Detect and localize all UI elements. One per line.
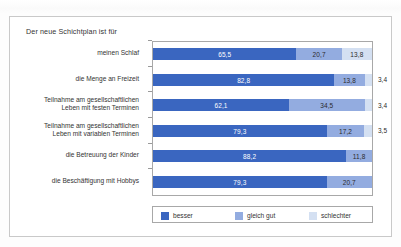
bar-segment: 82,8 bbox=[153, 74, 334, 86]
bar-segment: 13,8 bbox=[342, 48, 372, 60]
chart-page: Der neue Schichtplan ist für meinen Schl… bbox=[0, 0, 401, 247]
bar-value-label: 82,8 bbox=[237, 76, 250, 83]
bar-value-label: 20,7 bbox=[343, 179, 356, 186]
bar-segment: 79,3 bbox=[153, 125, 327, 137]
bar-segment: 11,8 bbox=[346, 150, 372, 162]
bar-segment: 34,5 bbox=[289, 99, 365, 111]
legend-item-besser[interactable]: besser bbox=[161, 210, 193, 221]
chart-title: Der neue Schichtplan ist für bbox=[26, 27, 117, 36]
legend-label: besser bbox=[173, 212, 193, 219]
bar-value-label-outside: 3,5 bbox=[378, 127, 387, 134]
scan-background-band bbox=[0, 0, 401, 14]
legend-swatch bbox=[161, 212, 169, 220]
category-label: Teilnahme am gesellschaftlichenLeben mit… bbox=[44, 96, 139, 112]
bar-value-label-outside: 3,4 bbox=[378, 76, 387, 83]
bar-segment: 17,2 bbox=[327, 125, 365, 137]
bar-value-label: 79,3 bbox=[233, 127, 246, 134]
category-label: die Beschäftigung mit Hobbys bbox=[52, 177, 139, 185]
bar-segment bbox=[364, 125, 372, 137]
category-label-line: Teilnahme am gesellschaftlichen bbox=[44, 96, 139, 104]
category-label: die Betreuung der Kinder bbox=[66, 151, 139, 159]
bar-value-label: 88,2 bbox=[243, 153, 256, 160]
bar-value-label: 62,1 bbox=[214, 102, 227, 109]
legend-item-gleich-gut[interactable]: gleich gut bbox=[235, 210, 275, 221]
bar-value-label: 20,7 bbox=[313, 51, 326, 58]
category-label: Teilnahme am gesellschaftlichenLeben mit… bbox=[44, 122, 139, 138]
legend-item-schlechter[interactable]: schlechter bbox=[309, 210, 351, 221]
bar-segment: 79,3 bbox=[153, 176, 327, 188]
bar-value-label: 34,5 bbox=[320, 102, 333, 109]
plot-area: 65,520,713,83,482,813,83,462,134,53,579,… bbox=[152, 41, 373, 196]
bar-row: 82,813,8 bbox=[153, 74, 372, 86]
category-label-line: die Menge an Freizeit bbox=[76, 75, 139, 83]
category-label-line: meinen Schlaf bbox=[97, 49, 139, 57]
bar-row: 79,320,7 bbox=[153, 176, 372, 188]
bar-value-label: 17,2 bbox=[339, 127, 352, 134]
chart-legend: bessergleich gutschlechter bbox=[152, 206, 373, 223]
bar-row: 79,317,2 bbox=[153, 125, 372, 137]
category-label-line: die Beschäftigung mit Hobbys bbox=[52, 177, 139, 185]
bar-segment: 13,8 bbox=[334, 74, 364, 86]
bar-value-label-outside: 3,4 bbox=[378, 102, 387, 109]
legend-label: gleich gut bbox=[247, 212, 275, 219]
bar-value-label: 13,8 bbox=[350, 51, 363, 58]
category-label-line: Leben mit festen Terminen bbox=[44, 104, 139, 112]
legend-swatch bbox=[235, 212, 243, 220]
bar-segment: 20,7 bbox=[327, 176, 372, 188]
legend-swatch bbox=[309, 212, 317, 220]
bar-value-label: 11,8 bbox=[353, 153, 366, 160]
legend-label: schlechter bbox=[321, 212, 351, 219]
bar-row: 88,211,8 bbox=[153, 150, 372, 162]
bar-value-label: 79,3 bbox=[233, 179, 246, 186]
bar-value-label: 13,8 bbox=[343, 76, 356, 83]
category-label-line: die Betreuung der Kinder bbox=[66, 151, 139, 159]
bar-segment bbox=[365, 74, 372, 86]
category-axis: meinen Schlafdie Menge an FreizeitTeilna… bbox=[0, 41, 152, 196]
category-label: meinen Schlaf bbox=[97, 49, 139, 57]
category-label-line: Leben mit variablen Terminen bbox=[44, 130, 139, 138]
bar-value-label: 65,5 bbox=[218, 51, 231, 58]
bar-row: 62,134,5 bbox=[153, 99, 372, 111]
category-label: die Menge an Freizeit bbox=[76, 75, 139, 83]
category-label-line: Teilnahme am gesellschaftlichen bbox=[44, 122, 139, 130]
bar-segment: 20,7 bbox=[296, 48, 341, 60]
bar-row: 65,520,713,8 bbox=[153, 48, 372, 60]
bar-segment bbox=[365, 99, 372, 111]
bar-segment: 62,1 bbox=[153, 99, 289, 111]
bar-segment: 65,5 bbox=[153, 48, 296, 60]
bar-segment: 88,2 bbox=[153, 150, 346, 162]
